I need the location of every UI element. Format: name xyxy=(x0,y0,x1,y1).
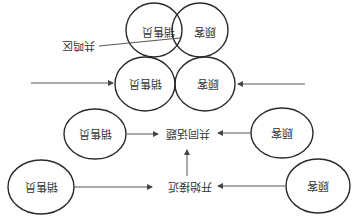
salesperson-label: 销售员 xyxy=(79,127,112,141)
resonance-zone-label: 共鸣区 xyxy=(62,39,95,53)
sales-resonance-diagram: 销售员 顾客 共鸣区 销售员 顾客 销售员 顾客 共同话题 销售员 顾客 开始接… xyxy=(0,0,355,224)
common-topic-label: 共同话题 xyxy=(166,127,210,140)
approach-label: 开始接近 xyxy=(168,180,212,194)
salesperson-label: 销售员 xyxy=(129,77,162,91)
salesperson-label: 销售员 xyxy=(25,180,58,194)
customer-label: 顾客 xyxy=(307,179,329,193)
salesperson-label: 销售员 xyxy=(142,25,175,39)
stage-contact: 销售员 顾客 xyxy=(31,57,305,111)
resonance-pointer-line xyxy=(99,38,180,46)
customer-label: 顾客 xyxy=(197,77,219,91)
stage-common-topic: 销售员 顾客 共同话题 xyxy=(64,108,313,159)
stage-approach: 销售员 顾客 开始接近 xyxy=(8,150,350,214)
customer-label: 顾客 xyxy=(194,25,216,39)
stage-resonance: 销售员 顾客 共鸣区 xyxy=(62,3,229,57)
customer-label: 顾客 xyxy=(271,126,293,140)
